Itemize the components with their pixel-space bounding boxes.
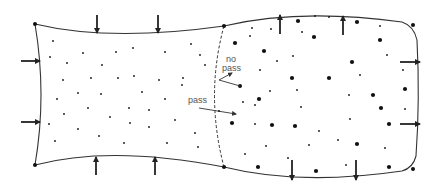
small-particle <box>158 79 160 81</box>
small-particle <box>141 91 143 93</box>
small-particle <box>49 56 51 58</box>
right-compartment <box>224 16 418 178</box>
small-particle <box>98 135 100 137</box>
small-particle <box>337 139 339 141</box>
small-particle <box>270 28 272 30</box>
large-particle <box>350 60 354 64</box>
small-particle <box>133 75 135 77</box>
small-particle <box>379 25 381 27</box>
small-particle <box>292 55 294 57</box>
left-side-edge <box>35 24 41 165</box>
small-particle <box>166 142 168 144</box>
small-particle <box>148 109 150 111</box>
small-particle <box>48 123 50 125</box>
large-particle <box>262 49 266 53</box>
large-particle <box>233 41 237 45</box>
small-particle <box>148 126 150 128</box>
small-particle <box>77 128 79 130</box>
large-particle <box>355 20 359 24</box>
small-particle <box>181 84 183 86</box>
membrane-diagram: no pass pass <box>0 0 438 189</box>
corner-dots <box>33 22 415 171</box>
large-particle <box>387 122 391 126</box>
small-particle <box>129 122 131 124</box>
small-particle <box>52 40 54 42</box>
large-particle <box>293 124 297 128</box>
small-particle <box>300 106 302 108</box>
large-particle <box>256 165 260 169</box>
small-particle <box>318 130 320 132</box>
small-particle <box>386 54 388 56</box>
small-particle <box>66 62 68 64</box>
small-particle <box>287 157 289 159</box>
small-particle <box>77 92 79 94</box>
small-particle <box>101 64 103 66</box>
pass-example <box>199 108 236 114</box>
small-particle <box>254 104 256 106</box>
small-particle <box>249 35 251 37</box>
large-particle <box>378 38 382 42</box>
left-top-edge <box>35 24 224 34</box>
large-particle <box>290 76 294 80</box>
small-particle <box>123 142 125 144</box>
large-particle <box>270 123 274 127</box>
small-particle <box>251 27 253 29</box>
small-particle <box>109 116 111 118</box>
force-arrows <box>21 15 420 180</box>
pass-label: pass <box>188 95 208 105</box>
small-particle <box>314 15 316 17</box>
right-particles <box>230 15 407 173</box>
small-particle <box>345 164 347 166</box>
large-particle <box>379 106 383 110</box>
small-particle <box>328 16 330 18</box>
large-particle <box>403 87 407 91</box>
small-particle <box>182 77 184 79</box>
large-particle <box>371 93 375 97</box>
large-particle <box>296 19 300 23</box>
small-particle <box>197 146 199 148</box>
small-particle <box>54 140 56 142</box>
large-particle <box>355 142 359 146</box>
small-particle <box>349 118 351 120</box>
small-particle <box>204 64 206 66</box>
small-particle <box>402 69 404 71</box>
small-particle <box>276 60 278 62</box>
small-particle <box>63 113 65 115</box>
small-particle <box>87 107 89 109</box>
small-particle <box>62 79 64 81</box>
small-particle <box>56 98 58 100</box>
small-particle <box>100 93 102 95</box>
small-particle <box>164 98 166 100</box>
small-particle <box>194 132 196 134</box>
small-particle <box>174 119 176 121</box>
small-particle <box>359 74 361 76</box>
small-particle <box>132 47 134 49</box>
small-particle <box>117 77 119 79</box>
small-particle <box>82 52 84 54</box>
small-particle <box>115 51 117 53</box>
small-particle <box>384 147 386 149</box>
small-particle <box>259 69 261 71</box>
small-particle <box>190 43 192 45</box>
large-particle <box>230 121 234 125</box>
large-particle <box>314 169 318 173</box>
large-particle <box>312 35 316 39</box>
small-particle <box>128 107 130 109</box>
small-particle <box>296 89 298 91</box>
small-particle <box>404 108 406 110</box>
left-bottom-edge <box>35 155 224 167</box>
large-particle <box>327 76 331 80</box>
left-small-particles <box>48 40 206 148</box>
small-particle <box>90 77 92 79</box>
large-particle <box>387 165 391 169</box>
dashed-boundary <box>215 26 225 167</box>
small-particle <box>199 54 201 56</box>
small-particle <box>308 144 310 146</box>
small-particle <box>244 153 246 155</box>
small-particle <box>265 145 267 147</box>
large-particle <box>257 97 261 101</box>
small-particle <box>254 123 256 125</box>
small-particle <box>301 31 303 33</box>
small-particle <box>242 101 244 103</box>
small-particle <box>269 90 271 92</box>
